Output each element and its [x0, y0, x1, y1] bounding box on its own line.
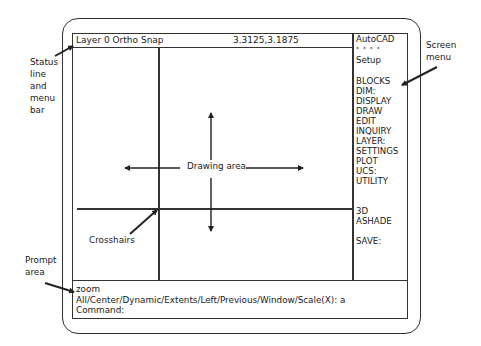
annotation-arrows: [0, 0, 481, 346]
prompt-callout-arrow-icon: [45, 283, 74, 292]
crosshair-callout-arrow-icon: [130, 210, 157, 234]
menu-callout-arrow-icon: [402, 67, 437, 85]
status-callout-arrow-icon: [55, 46, 73, 56]
